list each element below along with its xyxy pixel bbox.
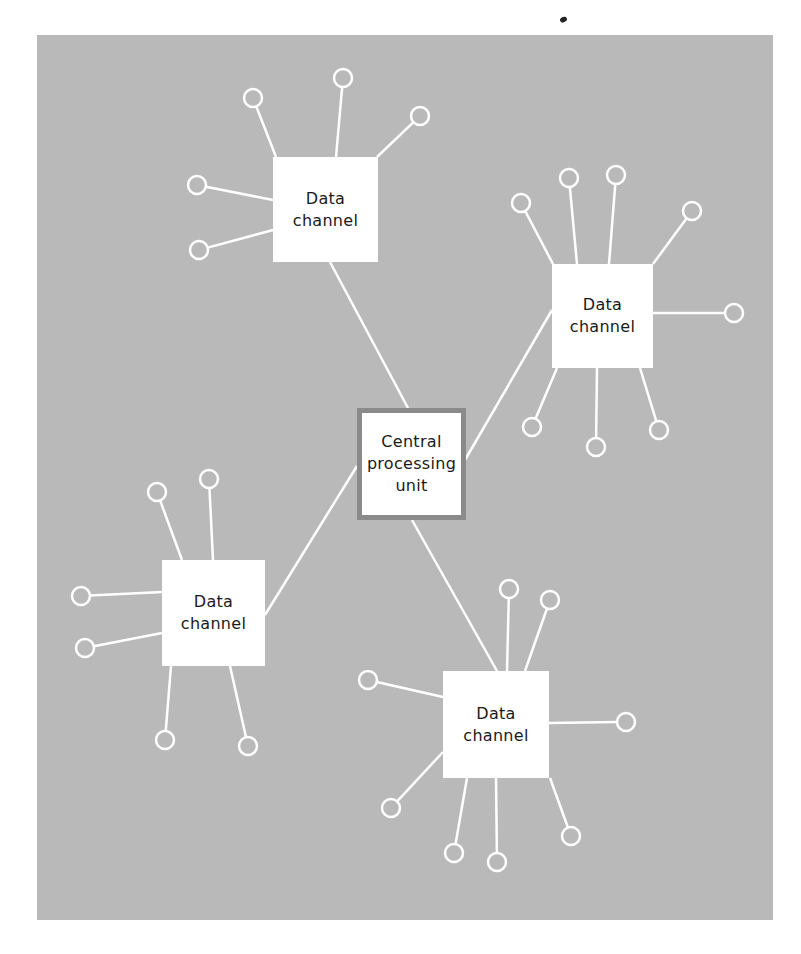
device-node-icon <box>560 169 578 187</box>
cpu-link-line <box>265 466 357 615</box>
device-stem-line <box>397 752 443 801</box>
device-node-icon <box>148 483 166 501</box>
device-node-icon <box>190 241 208 259</box>
device-stem-line <box>609 184 615 264</box>
channel-label-line-2: channel <box>181 613 246 635</box>
device-stem-line <box>525 211 553 264</box>
device-stem-line <box>456 778 467 844</box>
data-channel-top-left: Data channel <box>273 157 378 262</box>
device-node-icon <box>607 166 625 184</box>
device-stem-line <box>209 488 213 560</box>
device-node-icon <box>244 89 262 107</box>
data-channel-top-right: Data channel <box>552 264 653 368</box>
device-stem-line <box>230 666 246 737</box>
device-stem-line <box>549 722 617 723</box>
device-stem-line <box>160 500 182 560</box>
device-stem-line <box>570 187 577 264</box>
channel-label-line-2: channel <box>570 316 635 338</box>
channel-label-line-1: Data <box>194 591 233 613</box>
device-node-icon <box>334 69 352 87</box>
device-stem-line <box>525 608 547 671</box>
cpu-label-line-3: unit <box>395 475 427 497</box>
device-stem-line <box>166 666 171 731</box>
cpu-link-line <box>412 520 497 671</box>
device-node-icon <box>76 639 94 657</box>
device-stem-line <box>336 87 342 157</box>
device-node-icon <box>725 304 743 322</box>
channel-label-line-1: Data <box>583 294 622 316</box>
device-node-icon <box>617 713 635 731</box>
device-node-icon <box>382 799 400 817</box>
channel-label-line-2: channel <box>293 210 358 232</box>
device-stem-line <box>507 598 509 671</box>
device-stem-line <box>377 122 413 157</box>
device-node-icon <box>488 853 506 871</box>
device-stem-line <box>653 218 687 264</box>
device-stem-line <box>596 368 597 438</box>
device-stem-line <box>377 682 443 697</box>
channel-label-line-1: Data <box>306 188 345 210</box>
device-node-icon <box>156 731 174 749</box>
device-node-icon <box>500 580 518 598</box>
device-stem-line <box>90 592 162 596</box>
data-channel-bottom-left: Data channel <box>162 560 265 666</box>
device-node-icon <box>188 176 206 194</box>
cpu-link-line <box>330 262 408 408</box>
device-node-icon <box>411 107 429 125</box>
device-node-icon <box>200 470 218 488</box>
device-stem-line <box>94 633 162 646</box>
device-node-icon <box>445 844 463 862</box>
channel-label-line-1: Data <box>476 703 515 725</box>
channel-label-line-2: channel <box>463 725 528 747</box>
device-node-icon <box>650 421 668 439</box>
device-node-icon <box>683 202 701 220</box>
cpu-label-line-1: Central <box>381 431 441 453</box>
device-stem-line <box>496 778 497 853</box>
device-node-icon <box>239 737 257 755</box>
device-stem-line <box>206 187 273 200</box>
central-processing-unit-box: Central processing unit <box>357 408 466 520</box>
cpu-label-line-2: processing <box>367 453 456 475</box>
device-stem-line <box>536 368 557 419</box>
device-stem-line <box>256 106 276 157</box>
device-node-icon <box>523 418 541 436</box>
device-node-icon <box>359 671 377 689</box>
cpu-link-line <box>465 310 552 460</box>
device-node-icon <box>562 827 580 845</box>
device-stem-line <box>640 368 656 421</box>
device-node-icon <box>72 587 90 605</box>
device-stem-line <box>208 230 273 248</box>
device-stem-line <box>550 778 568 828</box>
device-node-icon <box>512 194 530 212</box>
device-node-icon <box>587 438 605 456</box>
data-channel-bottom-right: Data channel <box>443 671 549 778</box>
device-node-icon <box>541 591 559 609</box>
